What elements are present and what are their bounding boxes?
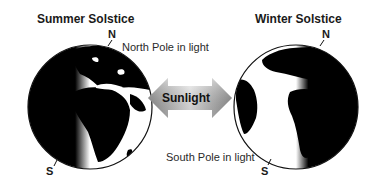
sunlight-label: Sunlight [162, 91, 210, 105]
south-pole-annotation: South Pole in light [166, 151, 255, 163]
left-south-label: S [46, 165, 53, 177]
right-globe [234, 40, 358, 169]
left-globe [28, 40, 152, 169]
left-north-label: N [108, 28, 116, 40]
summer-solstice-title: Summer Solstice [37, 12, 134, 26]
right-north-label: N [322, 28, 330, 40]
right-south-label: S [261, 165, 268, 177]
north-pole-annotation: North Pole in light [122, 41, 209, 53]
winter-solstice-title: Winter Solstice [255, 12, 342, 26]
